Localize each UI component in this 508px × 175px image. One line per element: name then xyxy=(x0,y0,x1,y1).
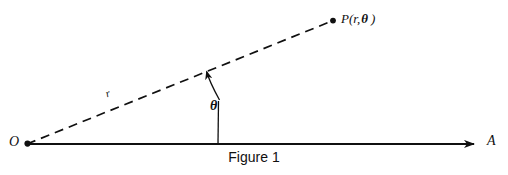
label-angle-theta: θ xyxy=(210,99,217,113)
label-axis-end-a: A xyxy=(487,134,496,148)
label-point-prefix: P( xyxy=(341,11,353,26)
label-point-p: P(r,θ) xyxy=(341,12,375,25)
label-point-suffix: ) xyxy=(371,11,375,26)
vertical-reference-line xyxy=(218,101,219,144)
origin-point-marker xyxy=(24,141,30,147)
point-p-marker xyxy=(330,18,336,24)
figure-caption: Figure 1 xyxy=(0,150,508,164)
radius-vector-dashed-line xyxy=(27,22,330,144)
figure-container: O A r θ P(r,θ) Figure 1 xyxy=(0,0,508,175)
label-origin-o: O xyxy=(9,135,19,149)
angle-arc-arrow xyxy=(207,72,220,101)
label-point-angle: θ xyxy=(360,11,368,26)
